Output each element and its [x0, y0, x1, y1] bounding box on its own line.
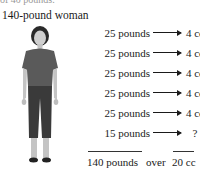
arrow-icon: [153, 52, 181, 53]
sum-rule-dose: [173, 151, 194, 152]
woman-figure: [18, 26, 62, 168]
weight-label: 25 pounds: [92, 26, 150, 40]
arrow-icon: [153, 132, 181, 133]
total-weight: 140 pounds: [87, 156, 138, 168]
dose-label: ?: [184, 126, 200, 140]
dose-label: 4 cc: [184, 26, 200, 40]
clipped-header-text: of 40 pounds.: [0, 0, 55, 5]
arrow-icon: [153, 112, 181, 113]
sum-rule-weight: [88, 151, 142, 152]
dose-label: 4 cc: [184, 86, 200, 100]
weight-label: 25 pounds: [92, 86, 150, 100]
arrow-icon: [153, 72, 181, 73]
arrow-icon: [153, 92, 181, 93]
weight-label: 15 pounds: [92, 126, 150, 140]
dose-label: 4 cc: [184, 106, 200, 120]
dose-label: 4 cc: [184, 46, 200, 60]
arrow-icon: [153, 32, 181, 33]
weight-label: 25 pounds: [92, 46, 150, 60]
diagram-title: 140-pound woman: [2, 9, 89, 21]
weight-label: 25 pounds: [92, 66, 150, 80]
total-dose: 20 cc: [172, 156, 196, 168]
weight-label: 25 pounds: [92, 106, 150, 120]
total-connector: over: [146, 156, 166, 168]
woman-figure-icon: [18, 26, 62, 168]
dose-label: 4 cc: [184, 66, 200, 80]
